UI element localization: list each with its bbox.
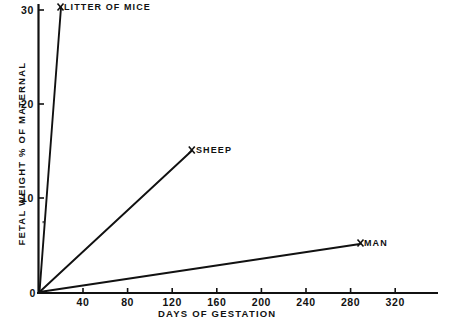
- x-tick-label-80: 80: [121, 296, 134, 308]
- series-line-litter-of-mice: [40, 8, 62, 293]
- x-axis-title: DAYS OF GESTATION: [158, 308, 276, 319]
- series-label-sheep: SHEEP: [196, 145, 232, 155]
- x-tick-label-120: 120: [163, 296, 182, 308]
- series-label-litter-of-mice: LITTER OF MICE: [64, 2, 151, 12]
- series-marker-man: [358, 240, 364, 247]
- y-axis-title: FETAL WEIGHT % OF MATERNAL: [16, 66, 27, 246]
- x-tick-label-320: 320: [386, 296, 405, 308]
- x-tick-label-240: 240: [296, 296, 315, 308]
- print-artifact-speck: [43, 221, 45, 223]
- y-tick-label-30: 30: [14, 4, 34, 16]
- x-tick-label-200: 200: [252, 296, 271, 308]
- chart-figure: 40 80 120 160 200 240 280 320 30 20 10 0…: [0, 0, 456, 323]
- series-marker-sheep: [189, 147, 195, 154]
- series-line-sheep: [40, 151, 192, 292]
- x-tick-label-280: 280: [341, 296, 360, 308]
- chart-canvas: [0, 0, 456, 323]
- y-tick-label-0: 0: [16, 287, 36, 299]
- x-tick-label-160: 160: [207, 296, 226, 308]
- series-line-man: [40, 244, 361, 292]
- x-tick-label-40: 40: [77, 296, 90, 308]
- series-label-man: MAN: [364, 238, 388, 248]
